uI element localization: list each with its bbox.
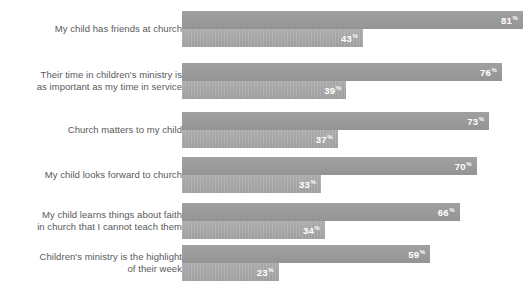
chart-row-label: My child has friends at church — [0, 23, 182, 35]
bar-upper-value: 73% — [467, 116, 484, 127]
bar-value-number: 43 — [341, 33, 352, 44]
percent-sign: % — [512, 15, 518, 21]
bar-lower-value: 43% — [341, 33, 358, 44]
bar-lower-value: 33% — [299, 179, 316, 190]
chart-row-bars: 81%43% — [182, 11, 523, 47]
bar-upper: 70% — [182, 157, 477, 175]
bar-lower-value: 39% — [324, 85, 341, 96]
chart-row-group: Church matters to my child73%37% — [0, 112, 529, 148]
chart-row-label: My child learns things about faith in ch… — [0, 209, 182, 234]
bar-value-number: 66 — [438, 207, 449, 218]
percent-sign: % — [491, 67, 497, 73]
bar-value-number: 37 — [316, 134, 327, 145]
chart-row-bars: 76%39% — [182, 63, 502, 99]
percent-sign: % — [268, 267, 274, 273]
bar-value-number: 34 — [303, 225, 314, 236]
bar-value-number: 39 — [324, 85, 335, 96]
bar-lower-value: 37% — [316, 134, 333, 145]
bar-upper: 73% — [182, 112, 489, 130]
chart-row-group: My child looks forward to church70%33% — [0, 157, 529, 193]
percent-sign: % — [479, 116, 485, 122]
percent-sign: % — [310, 179, 316, 185]
bar-value-number: 33 — [299, 179, 310, 190]
bar-value-number: 59 — [408, 249, 419, 260]
percent-sign: % — [420, 249, 426, 255]
bar-value-number: 23 — [257, 267, 268, 278]
bar-lower-value: 23% — [257, 267, 274, 278]
chart-row-group: Their time in children's ministry is as … — [0, 63, 529, 99]
chart-row-label: Children's ministry is the highlight of … — [0, 251, 182, 276]
chart-row-bars: 73%37% — [182, 112, 489, 148]
bar-upper: 59% — [182, 245, 430, 263]
bar-lower: 34% — [182, 221, 325, 239]
bar-lower: 33% — [182, 175, 321, 193]
percent-sign: % — [315, 225, 321, 231]
bar-upper: 66% — [182, 203, 460, 221]
bar-value-number: 76 — [480, 67, 491, 78]
chart-plot-area: My child has friends at church81%43%Thei… — [0, 0, 529, 291]
bar-value-number: 70 — [455, 161, 466, 172]
chart-row-bars: 66%34% — [182, 203, 460, 239]
bar-upper-value: 66% — [438, 207, 455, 218]
bar-lower: 37% — [182, 130, 338, 148]
chart-row-label: My child looks forward to church — [0, 169, 182, 181]
chart-row-group: My child has friends at church81%43% — [0, 11, 529, 47]
chart-row-bars: 59%23% — [182, 245, 430, 281]
percent-sign: % — [352, 33, 358, 39]
bar-upper: 81% — [182, 11, 523, 29]
percent-sign: % — [466, 161, 472, 167]
bar-lower: 23% — [182, 263, 279, 281]
bar-lower-value: 34% — [303, 225, 320, 236]
bar-upper-value: 70% — [455, 161, 472, 172]
percent-sign: % — [449, 207, 455, 213]
bar-upper: 76% — [182, 63, 502, 81]
grouped-bar-chart: My child has friends at church81%43%Thei… — [0, 0, 529, 291]
bar-upper-value: 76% — [480, 67, 497, 78]
percent-sign: % — [327, 134, 333, 140]
chart-row-label: Church matters to my child — [0, 124, 182, 136]
bar-lower: 39% — [182, 81, 346, 99]
bar-upper-value: 81% — [501, 15, 518, 26]
bar-value-number: 73 — [467, 116, 478, 127]
bar-lower: 43% — [182, 29, 363, 47]
bar-value-number: 81 — [501, 15, 512, 26]
bar-upper-value: 59% — [408, 249, 425, 260]
chart-row-group: My child learns things about faith in ch… — [0, 203, 529, 239]
chart-row-group: Children's ministry is the highlight of … — [0, 245, 529, 281]
chart-row-bars: 70%33% — [182, 157, 477, 193]
chart-row-label: Their time in children's ministry is as … — [0, 69, 182, 94]
percent-sign: % — [336, 85, 342, 91]
